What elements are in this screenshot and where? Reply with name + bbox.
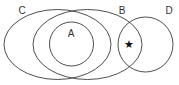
set-c-ellipse <box>4 10 111 80</box>
star-icon: ★ <box>124 38 134 51</box>
venn-diagram: C B D A ★ <box>0 0 179 85</box>
label-d: D <box>165 5 172 16</box>
label-a: A <box>68 28 75 39</box>
label-b: B <box>119 5 126 16</box>
label-c: C <box>18 5 25 16</box>
